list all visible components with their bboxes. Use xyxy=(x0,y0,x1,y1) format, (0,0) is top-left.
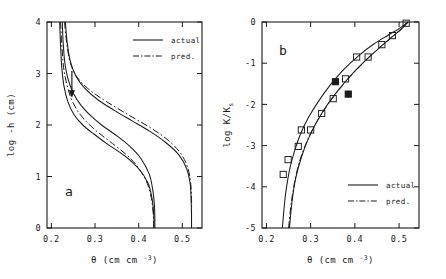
panel-b-legend-label-actual: actual xyxy=(386,181,416,190)
panel-a-ytick-label: 2 xyxy=(35,120,41,130)
panel-a-ytick-label: 0 xyxy=(35,223,41,233)
figure-root: 0.20.30.40.501234log -h (cm)θ (cm cm -3)… xyxy=(0,0,446,279)
panel-a-xtick-label: 0.5 xyxy=(174,234,191,244)
panel-b-filled-square-marker xyxy=(345,91,351,97)
panel-b-ytick-label: 0 xyxy=(250,17,256,27)
panel-b-xtick-label: 0.3 xyxy=(302,234,319,244)
panel-b-ytick-label: -2 xyxy=(245,100,256,110)
panel-a-xtick-label: 0.2 xyxy=(43,234,60,244)
panel-b-xtick-label: 0.4 xyxy=(347,234,364,244)
panel-b-xtick-label: 0.2 xyxy=(258,234,275,244)
panel-a-ytick-label: 4 xyxy=(35,17,41,27)
panel-a-legend-label-pred: pred. xyxy=(171,52,196,61)
panel-a-ytick-label: 1 xyxy=(35,172,41,182)
panel-a-xtick-label: 0.3 xyxy=(87,234,104,244)
panel-b-filled-square-marker xyxy=(332,79,338,85)
panel-a-legend-label-actual: actual xyxy=(171,36,201,45)
figure-svg: 0.20.30.40.501234log -h (cm)θ (cm cm -3)… xyxy=(0,0,446,279)
panel-a-yaxis-label: log -h (cm) xyxy=(6,93,16,157)
panel-a-label: a xyxy=(65,184,73,199)
panel-b-ytick-label: -1 xyxy=(245,58,256,68)
panel-b-label: b xyxy=(279,43,287,58)
panel-b-ytick-label: -4 xyxy=(245,182,256,192)
panel-a-xtick-label: 0.4 xyxy=(130,234,147,244)
panel-b-xtick-label: 0.5 xyxy=(391,234,408,244)
panel-b-ytick-label: -3 xyxy=(245,141,256,151)
panel-b-legend-label-pred: pred. xyxy=(386,197,411,206)
panel-b-ytick-label: -5 xyxy=(245,223,256,233)
panel-a-ytick-label: 3 xyxy=(35,69,41,79)
